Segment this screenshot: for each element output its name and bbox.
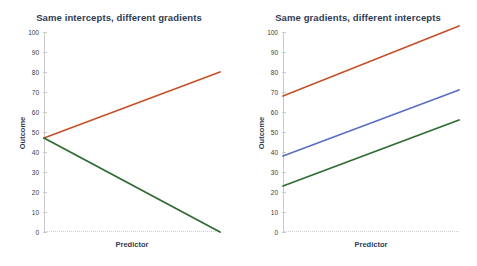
x-axis-label-left: Predictor [44, 240, 220, 249]
y-tick-label: 70 [271, 89, 278, 96]
data-line [283, 120, 459, 186]
plot-area-right: 0102030405060708090100 [283, 32, 459, 232]
chart-panel-left: Same intercepts, different gradients Out… [0, 0, 238, 266]
data-lines-left [44, 32, 220, 232]
data-line [44, 138, 220, 232]
data-line [283, 26, 459, 96]
y-tick-label: 10 [271, 209, 278, 216]
y-tick-label: 80 [271, 69, 278, 76]
y-tick-label: 100 [28, 29, 39, 36]
y-tick-label: 20 [32, 189, 39, 196]
y-tick-label: 0 [274, 229, 278, 236]
y-tick [43, 232, 47, 233]
y-tick-label: 100 [267, 29, 278, 36]
y-tick-label: 60 [271, 109, 278, 116]
y-tick-label: 20 [271, 189, 278, 196]
data-line [44, 72, 220, 138]
y-tick [282, 232, 286, 233]
y-tick-label: 70 [32, 89, 39, 96]
y-tick-label: 60 [32, 109, 39, 116]
chart-panel-right: Same gradients, different intercepts Out… [239, 0, 477, 266]
y-axis-label-right: Outcome [257, 117, 266, 150]
chart-title-left: Same intercepts, different gradients [0, 12, 238, 23]
y-tick-label: 40 [32, 149, 39, 156]
y-tick-label: 80 [32, 69, 39, 76]
y-tick-label: 90 [271, 49, 278, 56]
y-tick-label: 10 [32, 209, 39, 216]
y-tick-label: 0 [35, 229, 39, 236]
plot-area-left: 0102030405060708090100 [44, 32, 220, 232]
y-tick-label: 40 [271, 149, 278, 156]
data-line [283, 90, 459, 156]
y-tick-label: 30 [32, 169, 39, 176]
y-tick-label: 90 [32, 49, 39, 56]
y-axis-label-left: Outcome [18, 117, 27, 150]
y-tick-label: 50 [271, 129, 278, 136]
chart-title-right: Same gradients, different intercepts [239, 12, 477, 23]
data-lines-right [283, 32, 459, 232]
figure-canvas: Same intercepts, different gradients Out… [0, 0, 477, 266]
x-axis-label-right: Predictor [283, 240, 459, 249]
y-tick-label: 30 [271, 169, 278, 176]
y-tick-label: 50 [32, 129, 39, 136]
